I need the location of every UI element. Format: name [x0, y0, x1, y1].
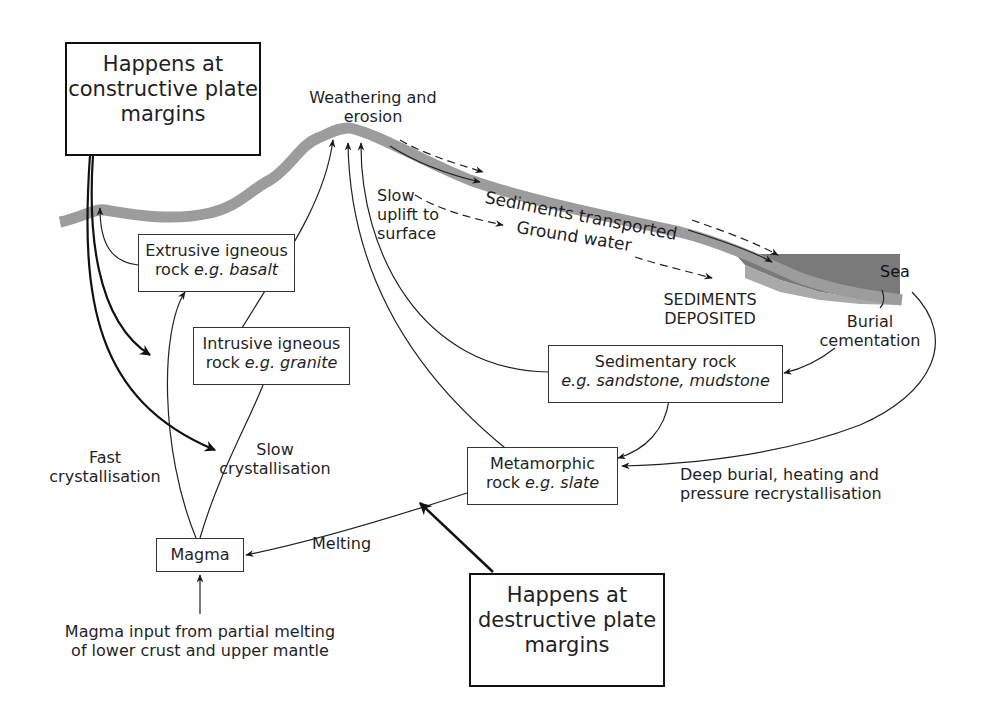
constructive-line1: Happens at — [67, 52, 259, 77]
constructive-line2: constructive plate — [67, 77, 259, 102]
extrusive-igneous-box: Extrusive igneous rock e.g. basalt — [138, 234, 295, 292]
fast-crystallisation-arrow — [167, 292, 196, 538]
sediments-deposited-label: SEDIMENTS DEPOSITED — [650, 290, 770, 328]
intrusive-line1: Intrusive igneous — [194, 334, 349, 353]
intrusive-line2-prefix: rock — [206, 353, 245, 372]
constructive-line3: margins — [67, 102, 259, 127]
destructive-arrow — [420, 503, 493, 572]
sedimentary-to-metamorphic-arrow — [618, 400, 669, 458]
slow-crystallisation-label: Slow crystallisation — [210, 440, 340, 478]
burial-cementation-arrow — [784, 348, 835, 373]
magma-input-label: Magma input from partial melting of lowe… — [40, 622, 360, 660]
constructive-plate-box: Happens at constructive plate margins — [65, 42, 261, 156]
burial-cementation-label: Burial cementation — [810, 312, 930, 350]
intrusive-igneous-box: Intrusive igneous rock e.g. granite — [193, 327, 350, 385]
ground-water-dashed-arrow-2 — [635, 257, 712, 278]
extrusive-example: e.g. basalt — [194, 260, 278, 279]
sedimentary-line1: Sedimentary rock — [549, 352, 782, 371]
destructive-line2: destructive plate — [471, 608, 663, 633]
sedimentary-example: e.g. sandstone, mudstone — [561, 371, 770, 390]
magma-label: Magma — [157, 545, 243, 564]
metamorphic-line2-prefix: rock — [486, 473, 525, 492]
slow-uplift-label: Slow uplift to surface — [377, 186, 439, 243]
melting-label: Melting — [312, 534, 371, 553]
metamorphic-line1: Metamorphic — [468, 454, 617, 473]
sea-label: Sea — [880, 262, 910, 281]
destructive-plate-box: Happens at destructive plate margins — [469, 573, 665, 687]
extrusive-line1: Extrusive igneous — [139, 241, 294, 260]
magma-box: Magma — [156, 538, 244, 572]
weathering-erosion-label: Weathering and erosion — [298, 88, 448, 126]
constructive-arrow-2 — [87, 155, 215, 450]
destructive-line3: margins — [471, 633, 663, 658]
fast-crystallisation-label: Fast crystallisation — [40, 448, 170, 486]
deep-burial-label: Deep burial, heating and pressure recrys… — [680, 465, 882, 503]
metamorphic-example: e.g. slate — [525, 473, 599, 492]
intrusive-example: e.g. granite — [245, 353, 338, 372]
extrusive-line2-prefix: rock — [155, 260, 194, 279]
sedimentary-rock-box: Sedimentary rock e.g. sandstone, mudston… — [548, 345, 783, 403]
destructive-line1: Happens at — [471, 583, 663, 608]
metamorphic-rock-box: Metamorphic rock e.g. slate — [467, 447, 618, 505]
